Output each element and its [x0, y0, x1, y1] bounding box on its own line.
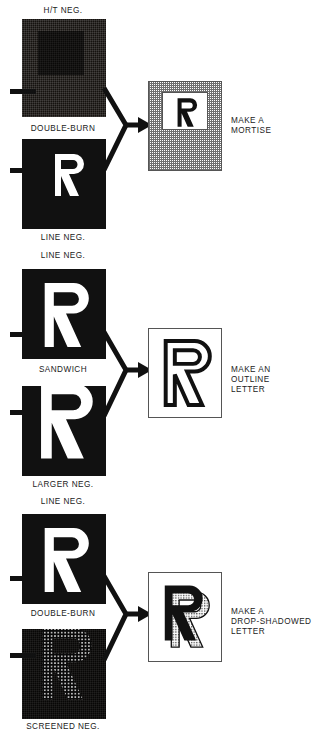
- lead-stub-screened-neg: [10, 653, 36, 658]
- label-ht-neg: H/T NEG.: [16, 6, 110, 17]
- label-double-burn-2: DOUBLE-BURN: [16, 609, 110, 620]
- lead-stub-line-neg-1: [10, 168, 36, 173]
- connector-arrow-outline: [100, 328, 152, 420]
- label-double-burn-1: DOUBLE-BURN: [16, 124, 110, 135]
- input-panel-line-neg-2: [22, 269, 106, 359]
- glyph-r-reverse-larger: [34, 386, 98, 462]
- label-screened-neg: SCREENED NEG.: [14, 722, 112, 733]
- label-make-a-dropshadow-line1: MAKE A: [231, 607, 317, 618]
- label-make-an-outline-line2: OUTLINE: [231, 375, 317, 386]
- lead-stub-ht-neg: [10, 89, 36, 94]
- label-make-an-outline-line1: MAKE AN: [231, 365, 317, 376]
- glyph-r-outline: [159, 338, 215, 408]
- result-panel-mortise: [148, 81, 222, 171]
- label-line-neg-3: LINE NEG.: [16, 497, 110, 508]
- lead-stub-line-neg-3: [10, 576, 36, 581]
- result-panel-dropshadow: [148, 572, 222, 662]
- lead-stub-larger-neg: [10, 410, 36, 415]
- label-line-neg-1: LINE NEG.: [16, 233, 110, 244]
- label-make-a-dropshadow-line2: DROP-SHADOWED: [231, 617, 317, 628]
- input-panel-ht-neg: [22, 19, 106, 117]
- label-sandwich: SANDWICH: [16, 365, 110, 376]
- glyph-r-reverse-large-2: [38, 525, 94, 595]
- input-panel-line-neg-3: [22, 514, 106, 604]
- connector-arrow-dropshadow: [100, 572, 152, 664]
- ht-neg-inner-block: [38, 31, 84, 75]
- input-panel-screened-neg: [22, 629, 106, 719]
- label-make-a-dropshadow-line3: LETTER: [231, 627, 317, 638]
- label-make-a-mortise-line1: MAKE A: [231, 116, 315, 127]
- label-make-an-outline-line3: LETTER: [231, 385, 317, 396]
- glyph-r-reverse-small: [52, 152, 86, 198]
- input-panel-line-neg-1: [22, 139, 106, 229]
- label-larger-neg: LARGER NEG.: [16, 480, 110, 491]
- mortise-window: [162, 92, 208, 130]
- input-panel-larger-neg: [22, 386, 106, 476]
- lead-stub-line-neg-2: [10, 332, 36, 337]
- connector-arrow-mortise: [100, 84, 152, 174]
- glyph-r-drop-shadowed: [159, 583, 215, 651]
- glyph-r-screened: [36, 629, 96, 703]
- result-panel-outline: [148, 328, 222, 418]
- glyph-r-black-mortise: [175, 97, 199, 128]
- glyph-r-reverse-large: [38, 280, 94, 350]
- label-line-neg-2: LINE NEG.: [16, 251, 110, 262]
- label-make-a-mortise-line2: MORTISE: [231, 126, 315, 137]
